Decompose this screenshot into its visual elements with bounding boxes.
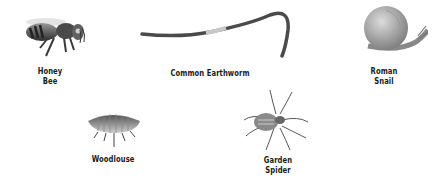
woodlouse-icon [84,111,144,151]
earthworm-illustration [140,10,300,60]
honey-bee-illustration [18,14,90,64]
label-line: Honey [33,67,67,77]
common-earthworm-label: Common Earthworm [168,69,253,79]
label-line: Snail [367,77,401,87]
label-line: Garden [261,156,295,166]
label-line: Roman [367,67,401,77]
earthworm-icon [140,10,300,60]
label-line: Bee [33,77,67,87]
roman-snail-illustration [358,2,428,52]
woodlouse-illustration [84,111,144,151]
label-line: Woodlouse [92,155,135,165]
label-line: Common Earthworm [168,69,253,79]
garden-spider-illustration [240,90,312,152]
snail-icon [358,2,428,52]
roman-snail-label: Roman Snail [367,67,401,87]
label-line: Spider [261,166,295,176]
spider-icon [240,90,312,152]
woodlouse-label: Woodlouse [92,155,135,165]
honey-bee-label: Honey Bee [33,67,67,87]
garden-spider-label: Garden Spider [261,156,295,176]
bee-icon [18,14,90,64]
